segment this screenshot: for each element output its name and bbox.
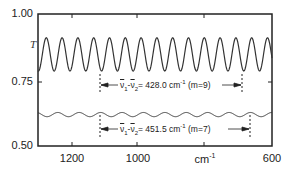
y-tick-label-0.75: 0.75 bbox=[3, 75, 33, 87]
y-tick-label-0.50: 0.50 bbox=[3, 139, 33, 151]
y-axis-label: T bbox=[30, 38, 36, 50]
x-unit-text: cm bbox=[195, 153, 210, 165]
x-tick-label-600: 600 bbox=[263, 152, 281, 164]
lower-fringe-line bbox=[38, 112, 272, 116]
order-m: (m=7) bbox=[186, 124, 211, 134]
x-tick-label-1000: 1000 bbox=[126, 152, 150, 164]
order-m: (m=9) bbox=[186, 80, 211, 90]
delta-value: = 428.0 cm bbox=[138, 80, 180, 90]
x-unit-sup: -1 bbox=[209, 152, 215, 159]
x-tick-label-1200: 1200 bbox=[60, 152, 84, 164]
upper-fringe-line bbox=[38, 38, 272, 71]
annotation-upper: ν1-ν2= 428.0 cm-1 (m=9) bbox=[119, 79, 211, 92]
annotation-lower: ν1-ν2= 451.5 cm-1 (m=7) bbox=[119, 123, 211, 136]
y-tick-label-1.00: 1.00 bbox=[3, 7, 33, 19]
delta-value: = 451.5 cm bbox=[138, 124, 180, 134]
x-axis-unit-label: cm-1 bbox=[195, 152, 216, 165]
